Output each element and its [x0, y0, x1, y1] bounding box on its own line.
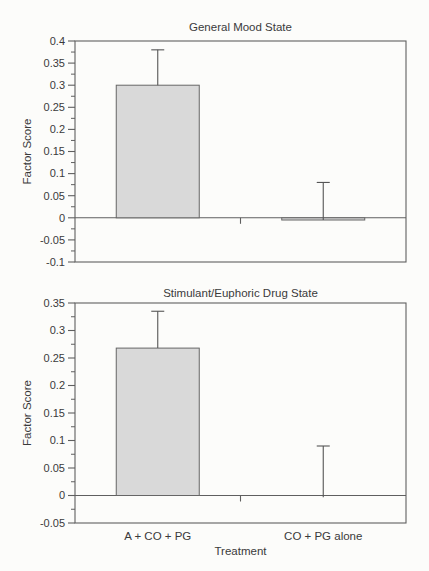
y-tick-label: 0.2	[50, 379, 65, 391]
y-tick-label: 0.4	[50, 35, 65, 47]
y-tick-label: 0.05	[44, 462, 65, 474]
y-tick-label: 0.2	[50, 123, 65, 135]
y-tick-label: 0.1	[50, 167, 65, 179]
y-tick-label: 0.3	[50, 79, 65, 91]
chart-stimulant-euphoric-drug-state: 0.350.30.250.20.150.10.050-0.05Stimulant…	[21, 287, 406, 557]
bar-charts-svg: 0.40.350.30.250.20.150.10.050-0.05-0.1Ge…	[0, 0, 429, 571]
y-tick-label: 0.25	[44, 101, 65, 113]
y-tick-label: 0.35	[44, 57, 65, 69]
y-tick-label: 0	[59, 489, 65, 501]
x-axis-label: Treatment	[215, 545, 268, 557]
category-label: CO + PG alone	[284, 530, 362, 542]
category-label: A + CO + PG	[124, 530, 191, 542]
y-tick-label: 0.35	[44, 297, 65, 309]
chart-general-mood-state: 0.40.350.30.250.20.150.10.050-0.05-0.1Ge…	[21, 21, 406, 268]
y-tick-label: 0.25	[44, 352, 65, 364]
y-tick-label: 0	[59, 212, 65, 224]
y-tick-label: 0.05	[44, 190, 65, 202]
y-axis-label: Factor Score	[21, 380, 33, 446]
figure-panel: 0.40.350.30.250.20.150.10.050-0.05-0.1Ge…	[0, 0, 429, 571]
y-tick-label: -0.05	[40, 234, 65, 246]
bar	[116, 85, 199, 218]
y-tick-label: 0.3	[50, 324, 65, 336]
y-tick-label: 0.15	[44, 145, 65, 157]
y-tick-label: -0.05	[40, 517, 65, 529]
y-tick-label: 0.1	[50, 434, 65, 446]
y-tick-label: 0.15	[44, 407, 65, 419]
y-tick-label: -0.1	[46, 256, 65, 268]
bar	[116, 348, 199, 495]
chart-title: Stimulant/Euphoric Drug State	[163, 287, 318, 299]
y-axis-label: Factor Score	[21, 119, 33, 185]
chart-title: General Mood State	[189, 21, 292, 33]
